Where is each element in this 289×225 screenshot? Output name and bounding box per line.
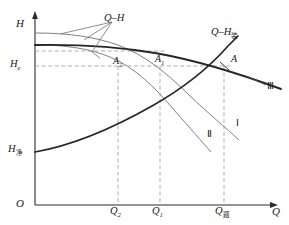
operating-point-A1-label: A1 <box>155 54 164 66</box>
q2-tick-label: Q2 <box>110 206 121 219</box>
h-rated-tick-label: He <box>10 59 21 72</box>
reference-lines-group <box>35 51 232 205</box>
h-rated-base: H <box>10 58 18 69</box>
qh-system-base: Q–H <box>211 26 231 37</box>
axes-group <box>32 11 278 208</box>
A1-sub: 1 <box>161 59 164 66</box>
qh-system-sub: 装 <box>231 32 238 40</box>
qh-pump-base: Q–H <box>104 12 124 23</box>
pump-curve-II <box>35 45 211 152</box>
A2-sub: 2 <box>119 61 122 68</box>
qh-leader-lines <box>60 22 112 58</box>
q1-tick-label: Q1 <box>152 206 163 219</box>
y-axis-arrowhead <box>32 11 38 19</box>
qh-leader-mid <box>84 22 112 40</box>
qh-system-curve-label: Q–H装 <box>211 27 238 40</box>
diagram-canvas <box>0 0 289 225</box>
y-axis-label: H <box>16 18 24 29</box>
h-static-sub: 净 <box>16 149 23 157</box>
q0-base: Q <box>215 205 223 216</box>
series-marker-I: Ⅰ <box>236 118 239 128</box>
pump-curve-I <box>35 33 239 140</box>
A-base: A <box>231 53 237 64</box>
h-static-base: H <box>8 143 16 154</box>
operating-point-A2-label: A2 <box>113 56 122 68</box>
leader-to-III <box>246 76 266 85</box>
series-leader-lines <box>246 76 266 85</box>
q2-base: Q <box>110 205 118 216</box>
series-marker-III: Ⅲ <box>267 81 274 91</box>
x-axis-label: Q <box>272 206 280 217</box>
origin-label: O <box>16 198 24 209</box>
q1-sub: 1 <box>160 211 163 218</box>
h-static-tick-label: H净 <box>8 144 23 157</box>
series-marker-II: Ⅱ <box>207 129 212 139</box>
h-rated-sub: e <box>18 64 21 71</box>
q1-base: Q <box>152 205 160 216</box>
qh-pump-curve-label: Q–H <box>104 13 124 24</box>
q2-sub: 2 <box>118 211 121 218</box>
q0-tick-label: Q题 <box>215 206 230 219</box>
pump-head-capacity-diagram: H O Q He H净 Q2 Q1 Q题 Q–H Q–H装 A2 A1 A Ⅰ … <box>0 0 289 225</box>
operating-point-A-label: A <box>231 54 237 64</box>
qh-leader-upper <box>60 22 112 34</box>
q0-sub: 题 <box>223 211 230 219</box>
